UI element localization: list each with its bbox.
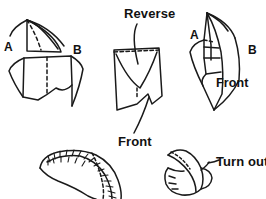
line-art-illustration [0,0,266,199]
label-a-left: A [4,41,13,53]
turnout-crease-2 [169,183,176,184]
right-piece-hline-1 [204,47,219,48]
label-reverse: Reverse [124,7,175,20]
label-front-middle: Front [118,135,152,148]
label-a-right: A [190,29,199,41]
diagram-canvas: Reverse Front Front Turn out A B A B [0,0,266,199]
label-turn-out: Turn out [216,155,266,168]
label-b-left: B [73,44,82,56]
label-b-right: B [248,44,257,56]
label-front-right: Front [216,77,248,90]
